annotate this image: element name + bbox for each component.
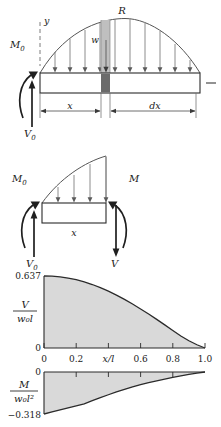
beam-body — [40, 73, 200, 93]
shear-ylabel-numerator: V — [21, 299, 30, 310]
shear-ylabel-denominator: w₀l — [17, 313, 33, 324]
fbd-label-V0: V0 — [26, 258, 38, 272]
shear-ylabel: V w₀l — [13, 299, 37, 324]
moment-ylabel-numerator: M — [18, 379, 30, 390]
dx-strip-load — [101, 20, 110, 73]
label-V0: V0 — [24, 128, 36, 142]
fbd-label-M0: M0 — [11, 173, 27, 187]
fbd-label-x: x — [71, 227, 77, 238]
mechanics-figure: y R — [0, 0, 221, 427]
fbd-beam-segment — [42, 203, 106, 223]
label-w: w — [91, 35, 99, 45]
shear-xtick-4: 0.8 — [166, 354, 181, 364]
chart-shear-diagram: 0.637 0 V w₀l 0 0.2 x/l 0.6 0.8 1.0 — [13, 271, 212, 364]
label-resultant-R: R — [117, 5, 126, 16]
chart-moment-diagram: 0 −0.318 M w₀l² — [8, 367, 205, 420]
panel-free-body-diagram: x M0 V0 M V — [11, 156, 140, 272]
shear-xtick-5: 1.0 — [198, 354, 213, 364]
dimension-extension-lines — [40, 93, 196, 118]
load-distribution-fill — [40, 18, 200, 73]
shear-xaxis-title: x/l — [103, 353, 115, 364]
shear-area-fill — [44, 276, 205, 348]
moment-ylabel-denominator: w₀l² — [14, 393, 34, 404]
dimension-label-dx: dx — [149, 100, 161, 111]
moment-M0-arc — [20, 75, 31, 118]
panel-beam-with-load: y R — [9, 5, 216, 142]
moment-ytick-top: 0 — [35, 367, 41, 377]
reaction-V0-arrowhead — [29, 80, 36, 89]
moment-ylabel: M w₀l² — [10, 379, 38, 404]
dimension-label-x: x — [67, 100, 73, 111]
shear-xtick-0: 0 — [41, 354, 47, 364]
fbd-shear-V-arrowhead — [113, 249, 120, 258]
fbd-label-M: M — [128, 173, 140, 184]
shear-xtick-3: 0.6 — [133, 354, 148, 364]
shear-xtick-1: 0.2 — [69, 354, 83, 364]
moment-ytick-bottom: −0.318 — [8, 410, 42, 420]
fbd-label-V: V — [111, 258, 120, 269]
fbd-moment-M0-arc — [22, 205, 33, 248]
dx-element-in-beam — [101, 74, 110, 93]
shear-ytick-top: 0.637 — [15, 271, 41, 281]
fbd-reaction-V0-arrowhead — [31, 210, 38, 219]
shear-ytick-bottom: 0 — [35, 343, 41, 353]
label-y: y — [43, 15, 50, 26]
label-M0: M0 — [9, 39, 25, 53]
